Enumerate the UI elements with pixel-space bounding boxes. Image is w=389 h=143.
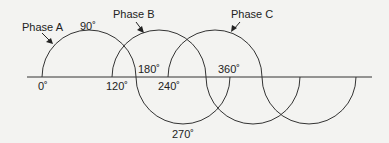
label-360-deg: 360˚ — [218, 64, 240, 75]
phase-c-positive-half — [168, 30, 262, 77]
label-120-deg: 120˚ — [106, 81, 128, 92]
label-0-deg: 0˚ — [38, 81, 48, 92]
label-240-deg: 240˚ — [158, 81, 180, 92]
label-180-deg: 180˚ — [138, 64, 160, 75]
label-90-deg: 90˚ — [80, 21, 96, 32]
phase-c-label: Phase C — [231, 9, 273, 20]
phase-c-negative-half — [262, 77, 356, 124]
phase-b-negative-half — [206, 77, 300, 124]
phase-a-positive-half — [42, 30, 136, 77]
phase-a-label: Phase A — [22, 22, 63, 33]
phase-a-arrow-icon — [42, 33, 53, 44]
label-270-deg: 270˚ — [172, 129, 194, 140]
phase-b-arrow-icon — [136, 22, 144, 33]
phase-c-arrow-icon — [231, 22, 240, 32]
phase-a-negative-half — [136, 77, 230, 124]
phase-b-label: Phase B — [113, 9, 155, 20]
